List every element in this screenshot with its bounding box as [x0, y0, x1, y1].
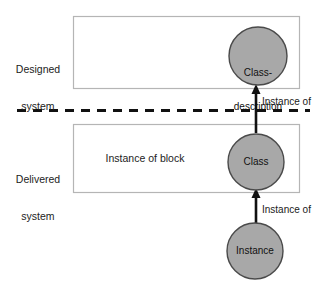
class-node[interactable]	[228, 134, 284, 190]
side-label-designed-system-line1: Designed	[8, 63, 68, 75]
side-label-delivered-system-line2: system	[8, 210, 68, 222]
instance-of-label-upper: Instance of	[262, 96, 311, 108]
diagram-canvas: Designed system Delivered system Instanc…	[0, 0, 332, 291]
instance-of-label-lower: Instance of	[262, 204, 311, 216]
side-label-designed-system-line2: system	[8, 100, 68, 112]
side-label-delivered-system: Delivered system	[8, 148, 68, 247]
side-label-delivered-system-line1: Delivered	[8, 173, 68, 185]
instance-node[interactable]	[227, 223, 283, 279]
side-label-designed-system: Designed system	[8, 38, 68, 137]
instance-of-block-label: Instance of block	[85, 152, 205, 164]
class-description-node[interactable]	[229, 27, 287, 85]
